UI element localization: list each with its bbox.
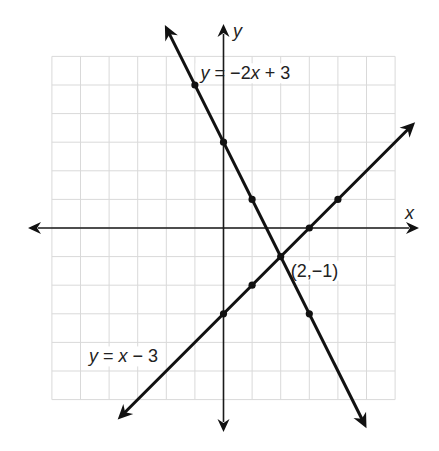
- label-part: = −2: [210, 63, 251, 83]
- graph-line-1: [169, 34, 362, 419]
- data-point: [220, 310, 227, 317]
- data-point: [306, 224, 313, 231]
- y-axis-label: y: [231, 21, 243, 41]
- coordinate-plane: y = −2x + 3y = x − 3(2,−1)xy: [0, 0, 439, 451]
- x-axis-label: x: [404, 203, 415, 223]
- graph-labels: y = −2x + 3y = x − 3(2,−1): [87, 63, 338, 366]
- intersection-point: [277, 253, 284, 260]
- label-part: − 3: [128, 346, 159, 366]
- label-backgrounds: [84, 63, 341, 366]
- data-point: [249, 282, 256, 289]
- axes: xy: [28, 21, 419, 432]
- data-point: [334, 196, 341, 203]
- label-part: =: [98, 346, 119, 366]
- equation-label-1: y = −2x + 3: [199, 63, 291, 83]
- intersection-label: (2,−1): [291, 261, 339, 281]
- graph-line-2: [125, 129, 408, 412]
- equation-label-2: y = x − 3: [87, 346, 158, 366]
- label-part: (2,−1): [291, 261, 339, 281]
- data-point: [306, 310, 313, 317]
- label-part: + 3: [260, 63, 291, 83]
- data-point: [220, 139, 227, 146]
- data-point: [191, 81, 198, 88]
- data-point: [249, 196, 256, 203]
